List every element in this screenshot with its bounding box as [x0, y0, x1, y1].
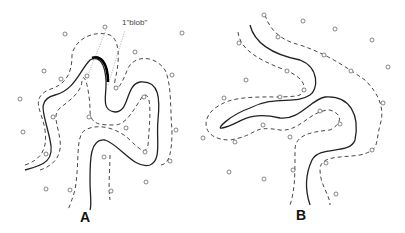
diagram-canvas	[0, 0, 405, 233]
panel-b-drawing	[201, 13, 390, 205]
blob-annotation: 1"blob"	[122, 18, 147, 27]
panel-b-label: B	[296, 207, 306, 223]
panel-b-main-curve	[220, 25, 356, 205]
panel-b-points	[201, 13, 390, 196]
panel-a-drawing	[18, 25, 184, 210]
panel-a-label: A	[80, 209, 90, 225]
